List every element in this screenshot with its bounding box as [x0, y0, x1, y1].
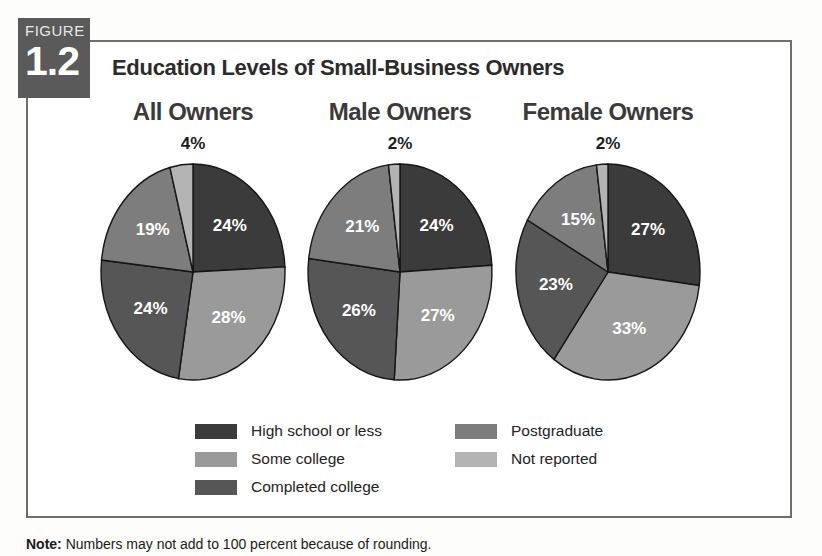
pie-slice-label: 24%	[213, 216, 247, 235]
pie-slice-label: 27%	[421, 306, 455, 325]
pie-slice-label: 21%	[345, 217, 379, 236]
figure-note: Note: Numbers may not add to 100 percent…	[26, 536, 806, 556]
pie-slice-label: 26%	[342, 301, 376, 320]
pie-slice-label: 23%	[539, 275, 573, 294]
pie-slice-label: 19%	[136, 220, 170, 239]
pie-chart-group: All Owners4%24%28%24%19%Male Owners2%24%…	[28, 98, 790, 398]
legend-swatch-high-school	[195, 424, 237, 439]
pie-chart-heading: Female Owners	[483, 98, 733, 126]
legend-item: Postgraduate	[455, 418, 603, 444]
pie-slice-label: 24%	[419, 216, 453, 235]
pie-slice-label: 27%	[631, 220, 665, 239]
legend-item-label: High school or less	[251, 422, 382, 440]
legend-item-label: Some college	[251, 450, 345, 468]
legend-swatch-postgraduate	[455, 424, 497, 439]
pie-callout-label: 2%	[483, 134, 747, 154]
legend-swatch-not-reported	[455, 452, 497, 467]
legend-swatch-completed-college	[195, 480, 237, 495]
figure-badge-number: 1.2	[25, 39, 90, 83]
legend-item-label: Postgraduate	[511, 422, 603, 440]
legend-item: Completed college	[195, 474, 382, 500]
figure-badge-word: FIGURE	[25, 22, 90, 39]
legend-item: Not reported	[455, 446, 603, 472]
legend-swatch-some-college	[195, 452, 237, 467]
pie-slice	[101, 260, 193, 379]
figure-root: FIGURE 1.2 Education Levels of Small-Bus…	[0, 0, 822, 556]
legend-item: High school or less	[195, 418, 382, 444]
chart-legend: High school or lessSome collegeCompleted…	[195, 418, 715, 498]
page-title: Education Levels of Small-Business Owner…	[112, 55, 564, 81]
pie-slice-label: 28%	[212, 308, 246, 327]
legend-item-label: Not reported	[511, 450, 597, 468]
pie-slice-label: 24%	[133, 299, 167, 318]
legend-column-left: High school or lessSome collegeCompleted…	[195, 418, 382, 502]
figure-note-text: Numbers may not add to 100 percent becau…	[62, 536, 432, 552]
pie-slice-label: 15%	[561, 210, 595, 229]
pie-slice-label: 33%	[612, 319, 646, 338]
legend-column-right: PostgraduateNot reported	[455, 418, 603, 474]
legend-item-label: Completed college	[251, 478, 379, 496]
pie-chart-3: Female Owners2%27%33%23%15%	[483, 98, 733, 398]
figure-badge: FIGURE 1.2	[18, 18, 90, 98]
legend-item: Some college	[195, 446, 382, 472]
pie-svg: 27%33%23%15%	[483, 160, 733, 390]
figure-note-label: Note:	[26, 536, 62, 552]
